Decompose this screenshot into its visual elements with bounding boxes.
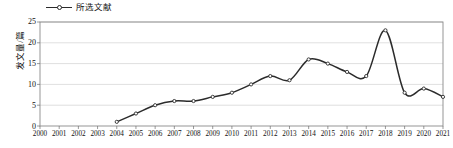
data-point bbox=[269, 74, 272, 77]
x-tick-2018: 2018 bbox=[378, 130, 392, 138]
plot-frame bbox=[40, 22, 443, 126]
data-point bbox=[326, 62, 329, 65]
data-point bbox=[307, 58, 310, 61]
x-tick-2012: 2012 bbox=[263, 130, 277, 138]
data-point bbox=[173, 99, 176, 102]
series-line-selected-literature bbox=[117, 30, 443, 122]
data-point bbox=[115, 120, 118, 123]
x-tick-2002: 2002 bbox=[71, 130, 85, 138]
x-tick-2013: 2013 bbox=[282, 130, 296, 138]
x-tick-2005: 2005 bbox=[129, 130, 143, 138]
data-point bbox=[345, 70, 348, 73]
x-tick-2011: 2011 bbox=[244, 130, 258, 138]
x-tick-2015: 2015 bbox=[321, 130, 335, 138]
data-point bbox=[134, 112, 137, 115]
data-point bbox=[441, 95, 444, 98]
x-tick-2017: 2017 bbox=[359, 130, 373, 138]
data-point bbox=[154, 104, 157, 107]
data-point bbox=[403, 91, 406, 94]
x-tick-2001: 2001 bbox=[52, 130, 66, 138]
x-tick-2008: 2008 bbox=[186, 130, 200, 138]
x-tick-2016: 2016 bbox=[340, 130, 354, 138]
line-chart: 所选文献 发文量/篇 25 20 15 10 5 0 2000200120022… bbox=[0, 0, 453, 148]
data-point bbox=[211, 95, 214, 98]
data-point bbox=[230, 91, 233, 94]
x-tick-2010: 2010 bbox=[225, 130, 239, 138]
x-tick-2021: 2021 bbox=[436, 130, 450, 138]
x-tick-2004: 2004 bbox=[110, 130, 124, 138]
x-tick-2006: 2006 bbox=[148, 130, 162, 138]
data-point bbox=[422, 87, 425, 90]
data-point bbox=[384, 29, 387, 32]
data-point bbox=[288, 79, 291, 82]
data-point bbox=[249, 83, 252, 86]
x-tick-2003: 2003 bbox=[90, 130, 104, 138]
plot-area bbox=[0, 0, 453, 148]
x-tick-2000: 2000 bbox=[33, 130, 47, 138]
x-tick-2020: 2020 bbox=[417, 130, 431, 138]
x-tick-2019: 2019 bbox=[397, 130, 411, 138]
x-axis-ticks: 2000200120022003200420052006200720082009… bbox=[0, 130, 453, 144]
x-tick-2007: 2007 bbox=[167, 130, 181, 138]
x-tick-2009: 2009 bbox=[206, 130, 220, 138]
data-point bbox=[365, 74, 368, 77]
data-point bbox=[192, 99, 195, 102]
x-tick-2014: 2014 bbox=[301, 130, 315, 138]
